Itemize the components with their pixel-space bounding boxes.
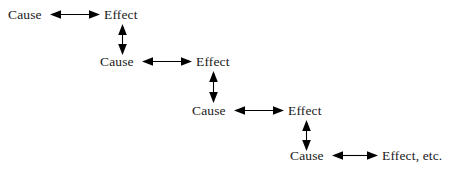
cause-effect-cascade-diagram: Cause Effect Cause Effect Caus [0, 0, 461, 171]
node-label-cause-4: Cause [290, 149, 324, 163]
node-label-cause-2: Cause [100, 55, 134, 69]
node-label-effect-1: Effect [104, 8, 138, 22]
node-label-effect-3: Effect [288, 104, 322, 118]
horizontal-double-arrow-3 [234, 104, 284, 117]
horizontal-double-arrow-2 [142, 55, 192, 68]
node-label-cause-3: Cause [192, 104, 226, 118]
horizontal-double-arrow-1 [50, 8, 100, 21]
node-label-cause-1: Cause [8, 8, 42, 22]
vertical-double-arrow-3 [300, 120, 313, 151]
node-label-effect-2: Effect [196, 55, 230, 69]
vertical-double-arrow-1 [116, 24, 129, 55]
horizontal-double-arrow-4 [332, 149, 378, 162]
vertical-double-arrow-2 [207, 71, 220, 103]
node-label-effect-4: Effect, etc. [382, 149, 442, 163]
